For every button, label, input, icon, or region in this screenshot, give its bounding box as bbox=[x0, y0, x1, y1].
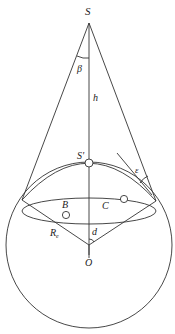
label-center: O bbox=[85, 257, 92, 268]
d-angle-arc bbox=[89, 239, 94, 242]
label-d: d bbox=[92, 226, 98, 237]
cone-right-edge bbox=[89, 23, 156, 201]
label-radius: Re bbox=[49, 227, 59, 239]
label-b: B bbox=[62, 199, 68, 210]
point-b-marker bbox=[62, 211, 69, 218]
point-c-marker bbox=[120, 195, 127, 202]
label-epsilon: ε bbox=[135, 165, 139, 175]
radius-right bbox=[89, 201, 156, 245]
label-height: h bbox=[93, 92, 98, 103]
cone-sphere-diagram: S β h S' ε B C Re d O bbox=[0, 0, 175, 334]
beta-angle-arc bbox=[77, 56, 89, 58]
label-subpoint: S' bbox=[77, 150, 85, 161]
subpoint-marker bbox=[85, 159, 93, 167]
label-apex: S bbox=[85, 5, 91, 17]
cone-left-edge bbox=[22, 23, 89, 200]
label-radius-subscript: e bbox=[56, 233, 59, 239]
label-c: C bbox=[102, 200, 109, 211]
label-beta: β bbox=[76, 63, 82, 74]
